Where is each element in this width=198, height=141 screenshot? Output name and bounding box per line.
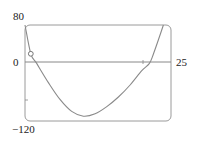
chart-canvas [0,0,198,141]
y-label-zero: 0 [13,57,19,68]
function-curve [25,25,163,116]
x-label-right: 25 [176,57,187,68]
y-label-bottom: −120 [12,124,35,135]
plot-frame [25,25,171,121]
open-circle-point [28,51,33,56]
y-label-top: 80 [13,11,24,22]
